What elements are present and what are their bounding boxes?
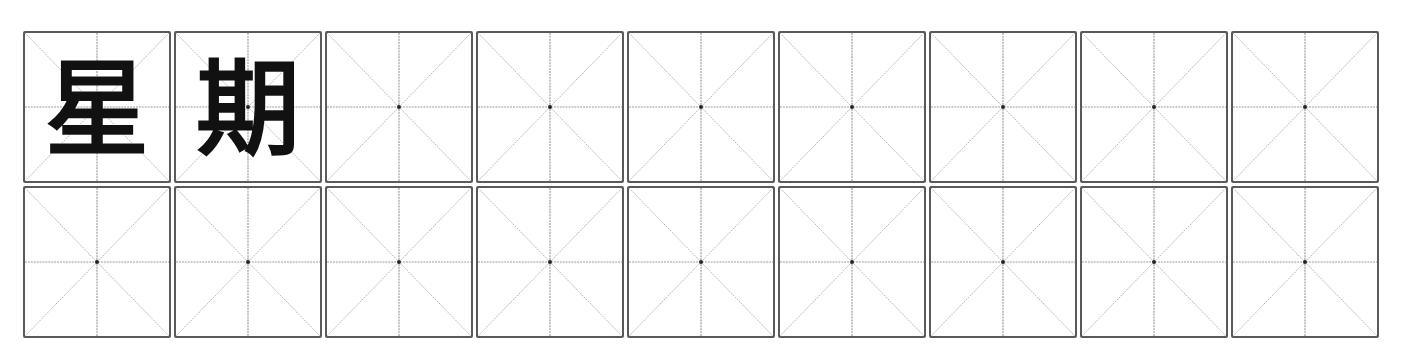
writing-cell <box>23 186 171 338</box>
writing-cell <box>929 31 1077 183</box>
practice-character: 期 <box>176 33 320 181</box>
writing-cell <box>778 186 926 338</box>
practice-character <box>478 188 622 336</box>
practice-character <box>1082 33 1226 181</box>
writing-cell <box>174 186 322 338</box>
grid-row-1: 星期 <box>23 31 1389 183</box>
writing-cell <box>778 31 926 183</box>
practice-character <box>25 188 169 336</box>
practice-character <box>478 33 622 181</box>
practice-character <box>176 188 320 336</box>
practice-character <box>1082 188 1226 336</box>
writing-cell: 期 <box>174 31 322 183</box>
writing-cell <box>1231 31 1379 183</box>
writing-cell <box>325 186 473 338</box>
writing-cell <box>476 31 624 183</box>
practice-character <box>629 33 773 181</box>
practice-character <box>327 188 471 336</box>
writing-cell <box>1231 186 1379 338</box>
practice-character <box>931 188 1075 336</box>
practice-character <box>1233 188 1377 336</box>
practice-character <box>780 188 924 336</box>
practice-character <box>629 188 773 336</box>
writing-cell <box>1080 31 1228 183</box>
writing-cell: 星 <box>23 31 171 183</box>
practice-character <box>1233 33 1377 181</box>
writing-cell <box>929 186 1077 338</box>
practice-sheet: 星期 <box>23 31 1389 341</box>
writing-cell <box>476 186 624 338</box>
practice-character <box>780 33 924 181</box>
writing-cell <box>1080 186 1228 338</box>
writing-cell <box>325 31 473 183</box>
grid-row-2 <box>23 186 1389 338</box>
practice-character <box>931 33 1075 181</box>
practice-character: 星 <box>25 33 169 181</box>
practice-character <box>327 33 471 181</box>
writing-cell <box>627 186 775 338</box>
writing-cell <box>627 31 775 183</box>
